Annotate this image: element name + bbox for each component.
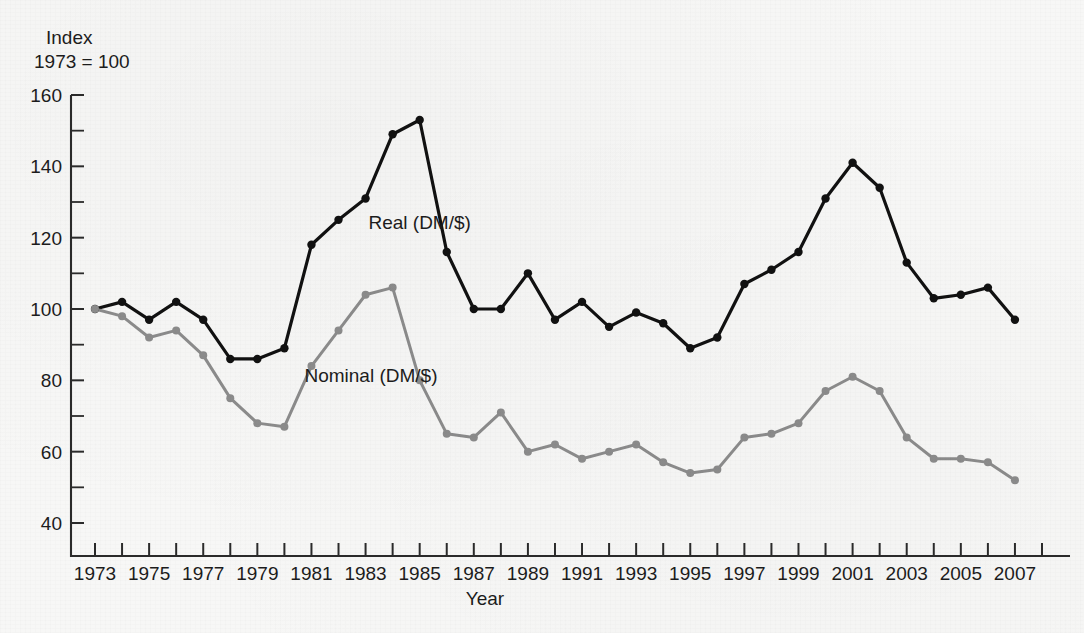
data-point-real-1988: [497, 305, 505, 313]
data-point-nominal-1976: [172, 326, 180, 334]
x-tick-label-2007: 2007: [994, 563, 1036, 584]
data-point-nominal-1999: [794, 419, 802, 427]
y-tick-label-80: 80: [41, 370, 62, 391]
data-point-nominal-1996: [713, 466, 721, 474]
x-tick-label-1979: 1979: [236, 563, 278, 584]
x-axis-title-year: Year: [466, 588, 505, 609]
data-point-nominal-1980: [280, 423, 288, 431]
data-point-nominal-1984: [389, 284, 397, 292]
data-point-nominal-1995: [686, 469, 694, 477]
data-point-real-1984: [388, 130, 396, 138]
data-point-nominal-1990: [551, 441, 559, 449]
x-tick-label-2001: 2001: [831, 563, 873, 584]
data-point-real-1978: [226, 355, 234, 363]
x-tick-label-1983: 1983: [344, 563, 386, 584]
data-point-real-2004: [930, 294, 938, 302]
x-tick-label-1973: 1973: [74, 563, 116, 584]
chart-canvas: Index 1973 = 100 406080100120140160 1973…: [0, 0, 1084, 633]
data-point-nominal-1978: [226, 394, 234, 402]
y-axis-major-ticks: [71, 95, 84, 523]
data-point-real-1981: [307, 241, 315, 249]
x-tick-label-1975: 1975: [128, 563, 170, 584]
data-point-real-1997: [740, 280, 748, 288]
data-point-nominal-1993: [632, 441, 640, 449]
data-point-nominal-1986: [443, 430, 451, 438]
y-tick-label-120: 120: [30, 228, 62, 249]
data-point-nominal-1992: [605, 448, 613, 456]
y-axis-title-base-year: 1973 = 100: [34, 51, 130, 72]
data-point-real-1989: [524, 269, 532, 277]
data-point-real-1977: [199, 316, 207, 324]
data-point-nominal-1973: [91, 305, 99, 313]
x-axis-ticks: [95, 543, 1042, 556]
x-axis-tick-labels: 1973197519771979198119831985198719891991…: [74, 563, 1036, 584]
exchange-rate-index-chart: Index 1973 = 100 406080100120140160 1973…: [0, 0, 1084, 633]
x-tick-label-1981: 1981: [290, 563, 332, 584]
data-point-nominal-2002: [876, 387, 884, 395]
x-tick-label-1989: 1989: [507, 563, 549, 584]
data-point-real-1990: [551, 316, 559, 324]
y-axis-title-index: Index: [46, 27, 93, 48]
series-label-real: Real (DM/$): [368, 212, 470, 233]
data-point-real-2000: [821, 194, 829, 202]
data-point-nominal-1989: [524, 448, 532, 456]
x-tick-label-1985: 1985: [399, 563, 441, 584]
data-point-nominal-1998: [767, 430, 775, 438]
data-point-real-1986: [443, 248, 451, 256]
y-tick-label-140: 140: [30, 156, 62, 177]
data-point-real-2007: [1011, 316, 1019, 324]
x-tick-label-1977: 1977: [182, 563, 224, 584]
data-point-real-2001: [848, 159, 856, 167]
data-point-nominal-2005: [957, 455, 965, 463]
series-markers-group: [91, 116, 1019, 484]
data-point-real-2006: [984, 283, 992, 291]
series-inline-labels: Real (DM/$)Nominal (DM/$): [304, 212, 470, 386]
data-point-nominal-1979: [253, 419, 261, 427]
axis-frame: [71, 95, 1070, 556]
x-tick-label-1995: 1995: [669, 563, 711, 584]
data-point-nominal-1977: [199, 351, 207, 359]
data-point-nominal-1994: [659, 458, 667, 466]
data-point-real-1980: [280, 344, 288, 352]
data-point-nominal-1982: [335, 326, 343, 334]
data-point-nominal-1987: [470, 433, 478, 441]
y-tick-label-40: 40: [41, 513, 62, 534]
data-point-real-1974: [118, 298, 126, 306]
data-point-real-1994: [659, 319, 667, 327]
data-point-nominal-2003: [903, 433, 911, 441]
x-tick-label-1997: 1997: [723, 563, 765, 584]
data-point-real-1992: [605, 323, 613, 331]
data-point-nominal-1988: [497, 408, 505, 416]
data-point-real-1996: [713, 333, 721, 341]
y-tick-label-60: 60: [41, 442, 62, 463]
data-point-real-1995: [686, 344, 694, 352]
data-point-real-1999: [794, 248, 802, 256]
data-point-nominal-2007: [1011, 476, 1019, 484]
data-point-nominal-2001: [849, 373, 857, 381]
data-point-real-1975: [145, 316, 153, 324]
data-point-real-1985: [415, 116, 423, 124]
data-point-real-1976: [172, 298, 180, 306]
x-tick-label-1987: 1987: [453, 563, 495, 584]
data-point-nominal-2006: [984, 458, 992, 466]
data-point-real-2003: [903, 258, 911, 266]
x-tick-label-1993: 1993: [615, 563, 657, 584]
data-point-nominal-1975: [145, 334, 153, 342]
data-point-real-1998: [767, 266, 775, 274]
x-tick-label-1999: 1999: [777, 563, 819, 584]
y-axis-tick-labels: 406080100120140160: [30, 85, 62, 534]
data-point-real-1993: [632, 308, 640, 316]
series-lines-group: [95, 120, 1015, 480]
data-point-nominal-2000: [822, 387, 830, 395]
data-point-nominal-1983: [362, 291, 370, 299]
data-point-real-1983: [361, 194, 369, 202]
data-point-real-2002: [875, 184, 883, 192]
data-point-real-1987: [470, 305, 478, 313]
x-tick-label-2003: 2003: [886, 563, 928, 584]
x-tick-label-1991: 1991: [561, 563, 603, 584]
data-point-real-1979: [253, 355, 261, 363]
data-point-real-1982: [334, 216, 342, 224]
data-point-nominal-1997: [740, 433, 748, 441]
data-point-nominal-1974: [118, 312, 126, 320]
data-point-real-1991: [578, 298, 586, 306]
